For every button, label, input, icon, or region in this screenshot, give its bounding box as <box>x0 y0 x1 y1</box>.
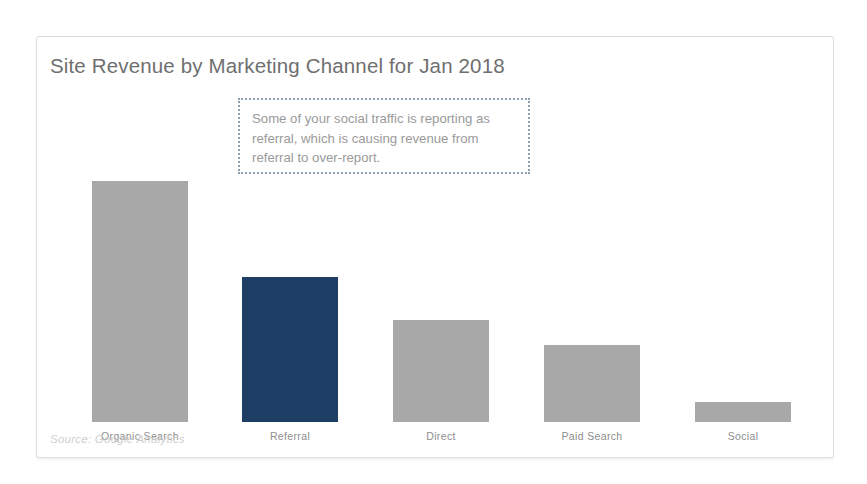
bar-paid-search[interactable] <box>544 345 640 422</box>
bar-referral[interactable] <box>242 277 338 422</box>
bar-label-direct: Direct <box>393 430 489 442</box>
bar-direct[interactable] <box>393 320 489 422</box>
source-note: Source: Google Analytics <box>50 433 185 445</box>
bar-label-referral: Referral <box>242 430 338 442</box>
bar-label-paid-search: Paid Search <box>544 430 640 442</box>
bar-social[interactable] <box>695 402 791 422</box>
annotation-callout: Some of your social traffic is reporting… <box>238 98 530 174</box>
chart-card: Site Revenue by Marketing Channel for Ja… <box>36 36 834 458</box>
bar-organic-search[interactable] <box>92 181 188 422</box>
annotation-text: Some of your social traffic is reporting… <box>252 109 517 168</box>
bar-label-social: Social <box>695 430 791 442</box>
